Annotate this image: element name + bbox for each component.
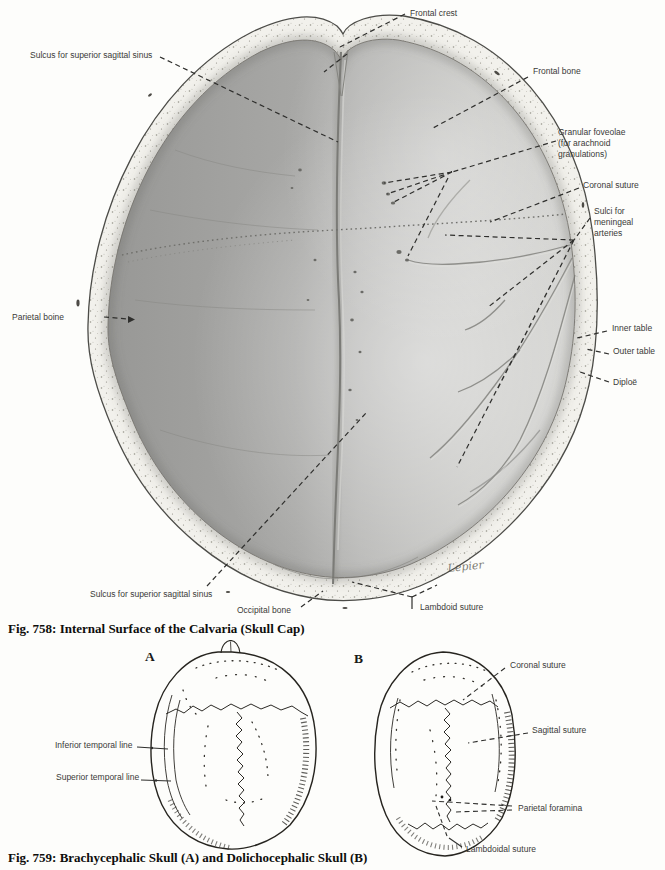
label-sulcus-sss-bottom: Sulcus for superior sagittal sinus (90, 589, 212, 600)
atlas-page: Lepier Frontal crest Sulcus (0, 0, 665, 870)
skull-a-outline (151, 652, 316, 849)
skulls-illustration (0, 640, 665, 870)
calvaria-illustration: Lepier (0, 0, 665, 620)
label-parietal-bone: Parietal boine (12, 312, 64, 323)
label-coronal-suture-759: Coronal suture (510, 660, 566, 671)
label-sagittal-suture: Sagittal suture (532, 725, 586, 736)
label-frontal-crest: Frontal crest (410, 8, 457, 19)
label-lambdoid-suture: Lambdoid suture (420, 602, 483, 613)
label-lambdoidal-suture: Lambdoidal suture (466, 844, 536, 855)
label-inferior-temporal-line: Inferior temporal line (55, 740, 132, 751)
label-occipital-bone: Occipital bone (237, 605, 291, 616)
skull-b-letter: B (354, 651, 363, 667)
label-sulci-meningeal: Sulci for meningeal arteries (594, 206, 633, 239)
label-sulcus-sss-top: Sulcus for superior sagittal sinus (30, 50, 152, 61)
label-granular-foveolae: Granular foveolae (for arachnoid granula… (558, 127, 626, 160)
label-diploe: Diploë (613, 377, 637, 388)
label-parietal-foramina: Parietal foramina (518, 803, 582, 814)
label-frontal-bone: Frontal bone (533, 66, 581, 77)
skull-a-letter: A (145, 649, 155, 665)
skull-b-outline (375, 652, 515, 856)
figure-758-caption: Fig. 758: Internal Surface of the Calvar… (8, 621, 304, 637)
label-coronal-suture-758: Coronal suture (583, 180, 639, 191)
figure-759-caption: Fig. 759: Brachycephalic Skull (A) and D… (8, 850, 367, 866)
label-superior-temporal-line: Superior temporal line (56, 772, 139, 783)
label-outer-table: Outer table (613, 346, 655, 357)
label-inner-table: Inner table (612, 323, 652, 334)
